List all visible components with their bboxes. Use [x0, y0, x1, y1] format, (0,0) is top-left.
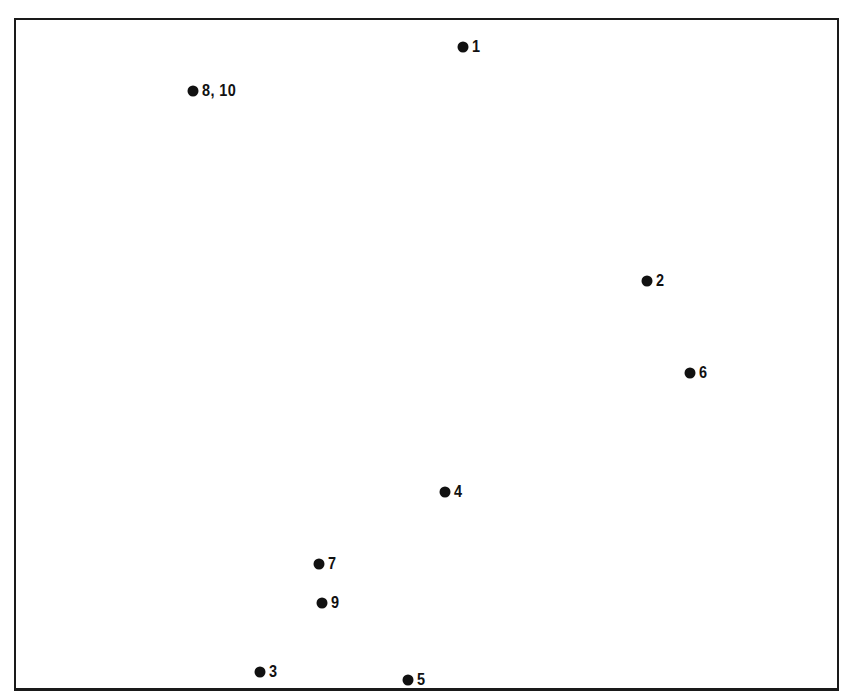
point-label: 5	[417, 670, 425, 690]
point-marker-icon	[685, 368, 696, 379]
point-marker-icon	[403, 675, 414, 686]
point-label: 7	[328, 554, 336, 574]
point-label: 4	[454, 482, 462, 502]
point-label: 6	[699, 363, 707, 383]
point-marker-icon	[188, 86, 199, 97]
point-label: 9	[331, 593, 339, 613]
point-label: 3	[269, 662, 277, 682]
point-label: 8, 10	[202, 81, 236, 101]
point-label: 2	[656, 271, 664, 291]
point-marker-icon	[317, 598, 328, 609]
point-marker-icon	[255, 667, 266, 678]
point-label: 1	[472, 37, 480, 57]
point-marker-icon	[642, 276, 653, 287]
plot-frame	[14, 18, 839, 691]
point-marker-icon	[314, 559, 325, 570]
point-marker-icon	[440, 487, 451, 498]
point-marker-icon	[458, 42, 469, 53]
